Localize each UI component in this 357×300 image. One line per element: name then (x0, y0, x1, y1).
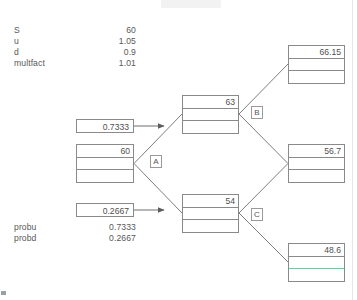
probability-row: probd 0.2667 (14, 233, 154, 244)
node-box-root[interactable]: 60 (76, 144, 134, 183)
node-cell-empty (289, 170, 344, 183)
node-box-down[interactable]: 54 (182, 194, 239, 233)
parameter-value: 1.01 (14, 58, 136, 69)
node-cell-value: 60 (77, 145, 133, 158)
tag-b[interactable]: B (251, 106, 263, 119)
node-cell-value: 56.7 (289, 145, 344, 158)
tag-c[interactable]: C (251, 208, 263, 221)
parameter-value: 1.05 (14, 36, 136, 47)
node-cell-value: 48.6 (289, 244, 344, 257)
node-cell-value: 66.15 (289, 46, 344, 59)
parameter-row: multfact 1.01 (14, 58, 154, 69)
node-cell-empty (289, 59, 344, 72)
prob-down-box[interactable]: 0.2667 (76, 203, 134, 217)
diagram-canvas: S 60 u 1.05 d 0.9 multfact 1.01 probu 0.… (0, 0, 357, 300)
edge-up-to-updown (239, 114, 288, 164)
node-cell-empty (289, 71, 344, 84)
node-cell-empty (289, 269, 344, 282)
node-box-downdown[interactable]: 48.6 (288, 243, 345, 282)
parameter-row: d 0.9 (14, 47, 154, 58)
tag-a[interactable]: A (150, 155, 162, 168)
node-cell-empty (77, 158, 133, 171)
edge-down-to-downdown (239, 213, 288, 262)
node-cell-empty (183, 220, 238, 233)
node-box-upup[interactable]: 66.15 (288, 45, 345, 84)
node-cell-empty (183, 109, 238, 122)
node-cell-empty (183, 121, 238, 134)
top-edge-artifact (161, 0, 221, 8)
probability-table: probu 0.7333 probd 0.2667 (14, 222, 154, 244)
node-cell-empty (289, 158, 344, 171)
node-cell-value: 63 (183, 96, 238, 109)
node-cell-value: 54 (183, 195, 238, 208)
edge-up-to-upup (239, 64, 288, 114)
node-cell-empty (77, 170, 133, 183)
prob-up-box[interactable]: 0.7333 (76, 119, 134, 133)
node-box-up[interactable]: 63 (182, 95, 239, 134)
edge-down-to-updown (239, 164, 288, 214)
node-cell-highlighted (289, 257, 344, 270)
probability-row: probu 0.7333 (14, 222, 154, 233)
node-box-updown[interactable]: 56.7 (288, 144, 345, 183)
probability-value: 0.7333 (14, 222, 136, 233)
parameter-value: 60 (14, 25, 136, 36)
edge-root-to-down (134, 164, 182, 214)
parameter-row: u 1.05 (14, 36, 154, 47)
parameter-row: S 60 (14, 25, 154, 36)
parameter-table: S 60 u 1.05 d 0.9 multfact 1.01 (14, 25, 154, 69)
parameter-value: 0.9 (14, 47, 136, 58)
probability-value: 0.2667 (14, 233, 136, 244)
bottom-left-speck (1, 291, 6, 295)
node-cell-empty (183, 208, 238, 221)
right-frame-line (352, 0, 353, 300)
